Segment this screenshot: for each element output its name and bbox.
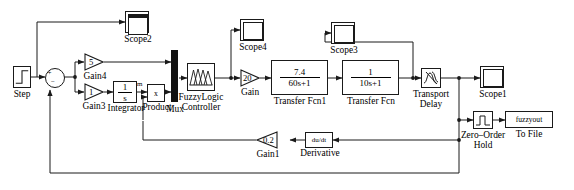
- integrator-denominator: s: [118, 92, 132, 103]
- scope-icon: [128, 14, 148, 35]
- block-transfer-fcn1-label: Transfer Fcn1: [263, 96, 337, 107]
- block-gain1-value: 0.2: [263, 135, 274, 145]
- block-scope1-label: Scope1: [473, 89, 513, 100]
- scope-icon: [243, 22, 263, 40]
- block-diagram-canvas: Step + − 5 Gain4 1 Gain3 1 s m Integrato…: [0, 0, 574, 190]
- block-transfer-fcn1[interactable]: 7.4 60s+1: [271, 60, 328, 95]
- block-transfer-fcn-label: Transfer Fcn: [334, 96, 408, 107]
- transfer-fcn-numerator: 1: [351, 67, 391, 77]
- block-step-label: Step: [4, 89, 40, 100]
- zero-order-hold-icon: [475, 114, 491, 127]
- block-zero-order-hold[interactable]: [473, 111, 493, 129]
- step-input-icon: [14, 67, 30, 87]
- block-gain4-value: 5: [89, 57, 93, 67]
- transfer-fcn1-expression: 7.4 60s+1: [280, 67, 320, 88]
- block-gain4[interactable]: [84, 53, 104, 71]
- scope-icon: [483, 69, 503, 87]
- block-scope4[interactable]: [240, 19, 264, 41]
- block-gain3[interactable]: [84, 83, 104, 101]
- block-scope3-label: Scope3: [323, 45, 365, 56]
- transfer-fcn-expression: 1 10s+1: [351, 67, 391, 88]
- to-file-filename: fuzzyout: [516, 115, 543, 124]
- transfer-fcn1-denominator: 60s+1: [280, 77, 320, 88]
- block-derivative-label: Derivative: [294, 148, 346, 159]
- product-symbol: x: [154, 89, 158, 98]
- block-transport-delay-label-line2: Delay: [406, 99, 456, 109]
- block-fuzzy-label-line1: FuzzyLogic: [171, 92, 231, 102]
- block-transfer-fcn[interactable]: 1 10s+1: [342, 60, 399, 95]
- block-fuzzy-logic-controller[interactable]: [187, 63, 215, 91]
- block-product[interactable]: x: [147, 84, 165, 102]
- sum-minus-sign: −: [51, 78, 55, 86]
- block-integrator[interactable]: 1 s: [113, 81, 137, 103]
- block-transport-delay-label-line1: Transport: [406, 89, 456, 99]
- block-transport-delay[interactable]: [421, 68, 441, 88]
- block-gain4-label: Gain4: [76, 71, 114, 82]
- block-scope3[interactable]: [331, 22, 355, 44]
- block-gain1-label: Gain1: [249, 149, 287, 160]
- block-to-file[interactable]: fuzzyout: [505, 111, 553, 128]
- block-scope1[interactable]: [480, 66, 504, 88]
- derivative-expression: du/dt: [312, 136, 326, 144]
- block-zoh-label-line2: Hold: [455, 140, 511, 150]
- block-to-file-label: To File: [505, 129, 553, 140]
- block-step[interactable]: [13, 66, 31, 88]
- scope-icon: [334, 25, 354, 43]
- triangle-gain-icon: [84, 53, 104, 71]
- block-scope2-label: Scope2: [117, 34, 159, 45]
- block-scope2[interactable]: [125, 11, 149, 33]
- membership-function-icon: [189, 67, 213, 87]
- block-zoh-label-line1: Zero–Order: [455, 130, 511, 140]
- block-gain3-value: 1: [89, 87, 93, 97]
- sum-plus-sign: +: [48, 69, 52, 77]
- transport-delay-icon: [423, 70, 440, 86]
- triangle-gain-icon: [84, 83, 104, 101]
- transfer-fcn-denominator: 10s+1: [351, 77, 391, 88]
- block-derivative[interactable]: du/dt: [305, 132, 333, 148]
- transfer-fcn1-numerator: 7.4: [280, 67, 320, 77]
- block-gain-value: 20: [243, 73, 252, 83]
- block-fuzzy-label-line2: Controller: [171, 102, 231, 112]
- block-scope4-label: Scope4: [232, 42, 274, 53]
- integrator-numerator: 1: [118, 82, 132, 92]
- integrator-transfer-icon: 1 s: [118, 82, 132, 103]
- integrator-port-label: m: [137, 80, 142, 88]
